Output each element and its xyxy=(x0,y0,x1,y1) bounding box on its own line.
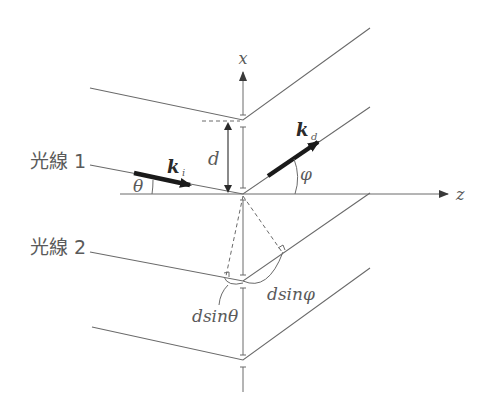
ray-path-0 xyxy=(90,28,370,120)
angle-phi: φ xyxy=(294,159,312,194)
incident-vector-sub: i xyxy=(182,167,185,178)
angle-theta: θ xyxy=(133,176,153,196)
x-axis-label: x xyxy=(238,49,247,68)
diffracted-vector-label: k xyxy=(296,119,308,140)
incident-vector-label: k xyxy=(167,156,179,177)
z-axis-label: z xyxy=(455,185,465,204)
phi-label: φ xyxy=(300,164,312,184)
dsin-phi-label: dsinφ xyxy=(267,284,315,304)
spacing-label: d xyxy=(208,148,220,169)
theta-label: θ xyxy=(133,176,143,196)
diffracted-vector-sub: d xyxy=(311,131,317,142)
x-axis: x xyxy=(238,49,247,392)
ray-1-label: 光線 1 xyxy=(30,150,86,172)
z-axis: z xyxy=(120,185,465,204)
path-difference: dsinθ dsinφ xyxy=(192,196,315,326)
dsin-theta-label: dsinθ xyxy=(192,306,238,326)
ray-path-1 xyxy=(90,107,370,194)
spacing-d: d xyxy=(202,121,240,189)
diffraction-diagram: x z d k i k d θ φ xyxy=(0,0,488,406)
ray-path-2 xyxy=(90,193,370,281)
ray-2-label: 光線 2 xyxy=(30,236,86,258)
